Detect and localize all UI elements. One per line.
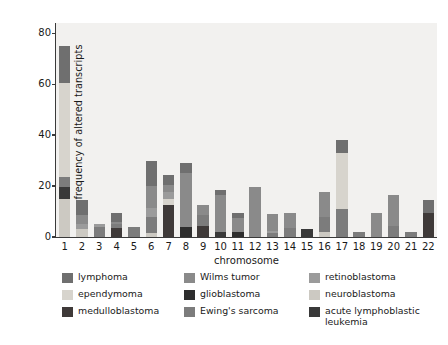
x-tick-label: 17	[335, 241, 348, 252]
color-swatch-icon	[62, 273, 73, 283]
bar-stack	[76, 200, 88, 237]
x-tick-label: 5	[131, 241, 137, 252]
x-tick-label: 3	[96, 241, 102, 252]
bar-segment	[111, 228, 123, 237]
bar-segment	[423, 200, 435, 213]
x-tick-label: 7	[165, 241, 171, 252]
color-swatch-icon	[309, 307, 320, 317]
x-tick-label: 22	[422, 241, 435, 252]
bar-segment	[197, 205, 209, 215]
bar-stack	[284, 213, 296, 237]
bar-segment	[180, 227, 192, 237]
color-swatch-icon	[62, 307, 73, 317]
bar-segment	[232, 232, 244, 237]
color-swatch-icon	[62, 290, 73, 300]
y-tick-label: 60	[38, 79, 51, 89]
bar-segment	[319, 232, 331, 237]
bar-segment	[111, 213, 123, 222]
bar-segment	[267, 214, 279, 231]
bar-stack	[146, 161, 158, 237]
legend-item: lymphoma	[62, 272, 184, 289]
plot-area: frequency of altered transcripts 0204060…	[55, 23, 437, 238]
bar-segment	[146, 161, 158, 186]
bar-segment	[163, 175, 175, 185]
bar-segment	[163, 205, 175, 237]
color-swatch-icon	[309, 290, 320, 300]
x-tick-label: 14	[283, 241, 296, 252]
legend-item: Wilms tumor	[184, 272, 309, 289]
bar-segment	[215, 232, 227, 237]
bar-stack	[128, 227, 140, 237]
bar-segment	[388, 195, 400, 226]
x-tick-label: 9	[200, 241, 206, 252]
color-swatch-icon	[309, 273, 320, 283]
bar-stack	[336, 140, 348, 237]
y-tick-label: 40	[38, 130, 51, 140]
bar-segment	[146, 217, 158, 234]
bar-segment	[336, 153, 348, 209]
x-tick-label: 13	[266, 241, 279, 252]
y-tick-label: 20	[38, 181, 51, 191]
legend-label: glioblastoma	[200, 289, 260, 300]
bar-stack	[423, 200, 435, 237]
bar-stack	[319, 192, 331, 237]
x-tick-label: 21	[405, 241, 418, 252]
bar-segment	[353, 232, 365, 237]
bar-segment	[146, 186, 158, 208]
legend-label: medulloblastoma	[78, 306, 159, 317]
legend-label: ependymoma	[78, 289, 143, 300]
x-tick-label: 11	[231, 241, 244, 252]
bar-group	[56, 23, 437, 237]
bar-segment	[76, 215, 88, 224]
legend-label: Ewing's sarcoma	[200, 306, 279, 317]
bar-segment	[76, 200, 88, 215]
y-tick-label: 80	[38, 28, 51, 38]
bar-segment	[301, 229, 313, 237]
bar-stack	[301, 229, 313, 237]
legend-item: medulloblastoma	[62, 306, 184, 323]
bar-segment	[249, 187, 261, 237]
color-swatch-icon	[184, 273, 195, 283]
bar-segment	[371, 213, 383, 237]
bar-segment	[336, 140, 348, 153]
x-tick-label: 19	[370, 241, 383, 252]
legend-item: acute lymphoblastic leukemia	[309, 306, 440, 323]
bar-segment	[267, 233, 279, 237]
x-tick-label: 15	[301, 241, 314, 252]
bar-segment	[197, 215, 209, 225]
bar-segment	[405, 232, 417, 237]
x-tick-label: 8	[183, 241, 189, 252]
bar-stack	[267, 214, 279, 237]
bar-segment	[232, 218, 244, 232]
bar-stack	[163, 175, 175, 237]
bar-segment	[284, 228, 296, 237]
x-axis-title: chromosome	[56, 255, 437, 266]
bar-segment	[59, 187, 71, 198]
bar-segment	[76, 229, 88, 237]
bar-segment	[319, 217, 331, 232]
legend-item: Ewing's sarcoma	[184, 306, 309, 323]
y-tick-label: 0	[45, 232, 51, 242]
bar-stack	[405, 232, 417, 237]
bar-segment	[128, 227, 140, 237]
color-swatch-icon	[184, 290, 195, 300]
bar-segment	[180, 163, 192, 173]
legend-label: neuroblastoma	[325, 289, 396, 300]
x-tick-label: 20	[387, 241, 400, 252]
bar-stack	[59, 46, 71, 237]
bar-segment	[163, 185, 175, 193]
x-tick-label: 12	[249, 241, 262, 252]
x-tick-label: 16	[318, 241, 331, 252]
legend-label: acute lymphoblastic leukemia	[325, 306, 420, 327]
bar-segment	[319, 192, 331, 216]
bar-stack	[197, 205, 209, 237]
x-tick-label: 1	[61, 241, 67, 252]
bar-segment	[146, 208, 158, 217]
legend-label: lymphoma	[78, 272, 128, 283]
legend-item: ependymoma	[62, 289, 184, 306]
legend: lymphomaWilms tumorretinoblastomaependym…	[62, 272, 440, 323]
bar-stack	[249, 187, 261, 237]
legend-item: glioblastoma	[184, 289, 309, 306]
bar-stack	[371, 213, 383, 237]
legend-label: retinoblastoma	[325, 272, 396, 283]
